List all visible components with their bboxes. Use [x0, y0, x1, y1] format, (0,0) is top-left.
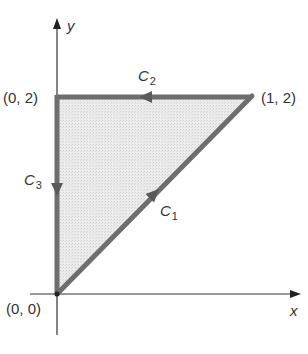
origin-dot: [55, 292, 60, 297]
diagram-svg: [0, 0, 308, 354]
curve-label-c1: C1: [160, 203, 178, 222]
c1-name: C: [160, 202, 171, 219]
y-axis-arrow-icon: [53, 18, 61, 29]
point-label-0-0: (0, 0): [6, 301, 41, 316]
x-axis: [30, 290, 301, 298]
x-axis-label: x: [290, 303, 298, 318]
diagram-canvas: y x (0, 2) (1, 2) (0, 0) C2 C3 C1: [0, 0, 308, 354]
x-axis-arrow-icon: [290, 290, 301, 298]
curve-label-c3: C3: [24, 172, 42, 191]
c2-subscript: 2: [150, 75, 156, 87]
point-label-0-2: (0, 2): [3, 90, 38, 105]
c3-subscript: 3: [36, 179, 42, 191]
c1-subscript: 1: [172, 210, 178, 222]
y-axis-label: y: [67, 18, 75, 33]
c3-name: C: [24, 171, 35, 188]
c2-name: C: [138, 67, 149, 84]
point-label-1-2: (1, 2): [261, 90, 296, 105]
curve-label-c2: C2: [138, 68, 156, 87]
